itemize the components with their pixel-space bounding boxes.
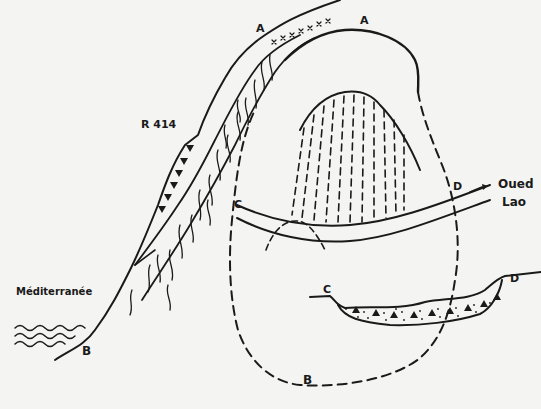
- scree-triangles: [158, 145, 194, 213]
- sea-waves: [15, 326, 85, 347]
- inner-dome: [292, 92, 420, 222]
- label-mediterranee: Méditerranée: [16, 286, 92, 297]
- ridge-crosses: [272, 19, 330, 44]
- label-road-r414: R 414: [141, 118, 177, 131]
- valley-profile: [310, 272, 541, 325]
- label-oued: Oued: [498, 177, 533, 191]
- label-b-sea: B: [82, 344, 91, 358]
- label-d-profile: D: [510, 272, 519, 285]
- geological-sketch: A A R 414 C D Oued Lao Méditerranée B B …: [0, 0, 541, 409]
- label-a-left: A: [256, 22, 265, 35]
- label-c-profile: C: [323, 283, 331, 296]
- label-b-bottom: B: [303, 373, 312, 387]
- label-c-channel: C: [234, 198, 242, 211]
- label-d-channel: D: [453, 180, 462, 193]
- label-lao: Lao: [502, 195, 526, 209]
- label-a-right: A: [360, 14, 369, 27]
